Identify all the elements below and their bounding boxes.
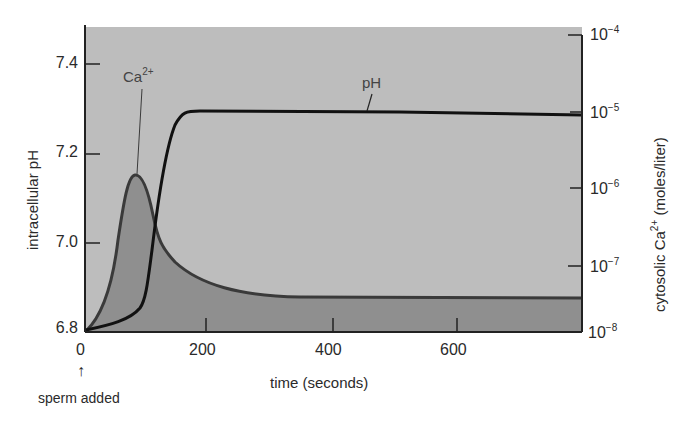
y-left-axis-label: intracellular pH [24,150,41,250]
chart-plot [0,0,681,428]
ph-curve-label: pH [362,74,381,91]
y-left-tick-label: 6.8 [28,319,78,337]
y-right-tick-label: 10−8 [588,322,617,342]
x-tick-label: 0 [76,341,85,359]
y-right-tick-label: 10−7 [590,256,619,276]
x-tick-label: 200 [189,341,216,359]
y-right-tick-label: 10−5 [590,102,619,122]
y-right-axis-label: cytosolic Ca2+ (moles/liter) [649,137,668,312]
y-right-tick-label: 10−4 [590,24,619,44]
x-axis-label: time (seconds) [270,374,368,391]
sperm-added-annotation: sperm added [38,390,120,406]
y-right-tick-label: 10−6 [590,178,619,198]
x-tick-label: 600 [440,341,467,359]
y-left-tick-label: 7.4 [28,54,78,72]
sperm-arrow-icon: ↑ [77,362,85,380]
ca-curve-label: Ca2+ [123,66,154,85]
x-tick-label: 400 [315,341,342,359]
